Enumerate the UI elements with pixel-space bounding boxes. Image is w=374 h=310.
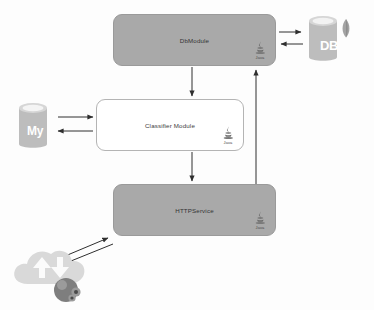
java-logo-text: Java <box>256 55 265 60</box>
module-classifier[interactable]: Classifier Module Java <box>96 99 244 151</box>
external-cloud-crawler[interactable] <box>8 240 108 306</box>
architecture-diagram-canvas: DbModule Java Classifier Module Java HTT <box>0 0 374 310</box>
module-dbmodule-label: DbModule <box>180 37 209 44</box>
module-httpservice-label: HTTPService <box>175 207 213 214</box>
java-logo-text: Java <box>224 140 233 145</box>
cloud-sync-spider-icon <box>8 240 108 306</box>
database-cylinder-leaf-icon <box>305 11 353 69</box>
java-logo-icon: Java <box>220 126 236 145</box>
java-logo-text: Java <box>256 225 265 230</box>
module-classifier-label: Classifier Module <box>145 122 195 129</box>
module-dbmodule[interactable]: DbModule Java <box>113 14 276 66</box>
java-logo-icon: Java <box>252 41 268 60</box>
java-logo-icon: Java <box>252 211 268 230</box>
module-httpservice[interactable]: HTTPService Java <box>113 184 276 236</box>
database-cylinder-icon <box>14 98 56 154</box>
datastore-mysql[interactable]: My <box>14 98 56 154</box>
datastore-mongodb[interactable]: DB <box>305 11 353 69</box>
